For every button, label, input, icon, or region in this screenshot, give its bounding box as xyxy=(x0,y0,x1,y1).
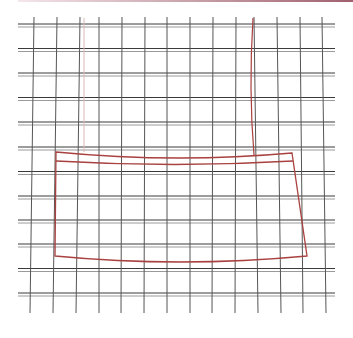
pattern-diagram xyxy=(0,0,353,338)
right-strap-line xyxy=(251,18,254,155)
waistband-outline xyxy=(55,152,307,262)
pattern-outline xyxy=(55,18,307,262)
waistband-inner-line xyxy=(56,161,293,165)
grid-horizontal-lines xyxy=(18,24,335,296)
